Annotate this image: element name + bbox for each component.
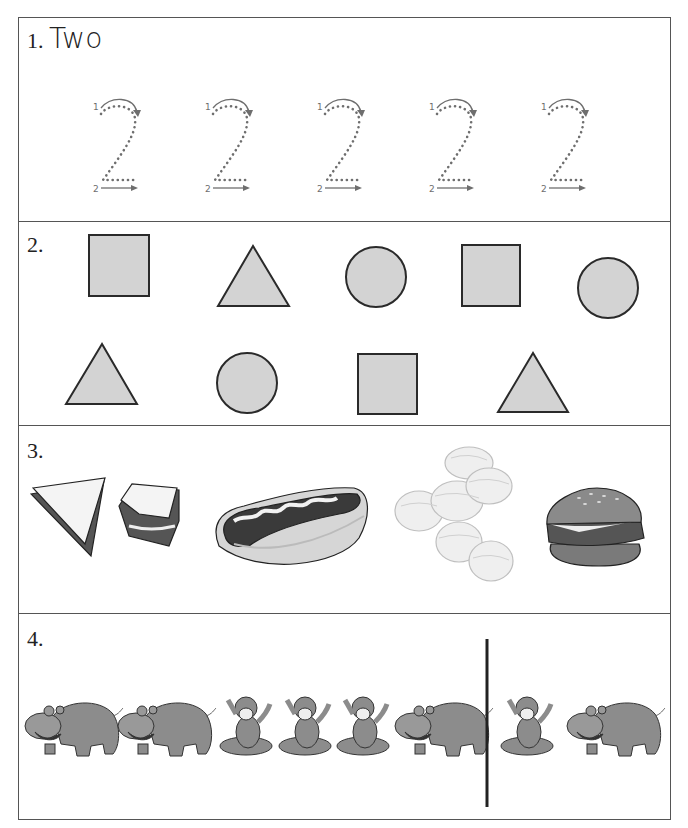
sandwich-icon: [31, 478, 179, 556]
square-icon: [462, 245, 520, 306]
hamburger-icon: [547, 488, 644, 566]
food-area: [19, 426, 672, 614]
hippo-icon: [395, 703, 493, 756]
shapes-area: [19, 222, 672, 426]
circle-icon: [346, 247, 406, 307]
tracing-digit-4[interactable]: [429, 99, 477, 194]
monkey-icon: [279, 697, 331, 755]
tracing-digits: 1 2: [19, 18, 672, 222]
animal-pattern: [19, 614, 672, 821]
square-icon: [358, 354, 417, 414]
monkey-icon: [501, 697, 553, 755]
triangle-icon: [498, 353, 568, 412]
monkey-icon: [337, 697, 389, 755]
circle-icon: [578, 258, 638, 318]
triangle-icon: [66, 344, 137, 404]
hippo-icon: [25, 703, 123, 756]
worksheet: 1. Two 1 2: [18, 17, 671, 820]
tracing-digit-3[interactable]: [317, 99, 365, 194]
section-4-pattern: 4.: [19, 614, 670, 821]
monkey-icon: [220, 697, 272, 755]
section-1-tracing: 1. Two 1 2: [19, 18, 670, 222]
section-3-foods: 3.: [19, 426, 670, 614]
tracing-digit-2[interactable]: [205, 99, 253, 194]
hotdog-icon: [216, 488, 367, 565]
hippo-icon: [567, 703, 665, 756]
circle-icon: [217, 353, 277, 413]
tracing-digit-5[interactable]: [541, 99, 589, 194]
tracing-digit-1[interactable]: [93, 99, 141, 194]
square-icon: [89, 235, 149, 296]
triangle-icon: [218, 246, 289, 306]
hippo-icon: [118, 703, 216, 756]
section-2-shapes: 2.: [19, 222, 670, 426]
chips-icon: [395, 447, 513, 581]
